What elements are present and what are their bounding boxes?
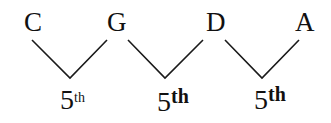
interval-number: 5 [254,84,268,115]
note-d: D [206,9,226,36]
interval-label-d-a: 5th [254,86,286,114]
note-g: G [107,9,127,36]
connector-c-g [32,40,107,78]
interval-label-c-g: 5th [60,86,85,114]
interval-number: 5 [157,86,171,117]
interval-number: 5 [60,84,74,115]
connector-g-d [128,40,203,78]
interval-suffix: th [74,90,85,105]
interval-label-g-d: 5th [157,88,189,116]
interval-suffix: th [171,85,189,107]
interval-suffix: th [268,83,286,105]
connector-d-a [225,40,299,78]
note-c: C [24,9,42,36]
note-a: A [295,9,315,36]
